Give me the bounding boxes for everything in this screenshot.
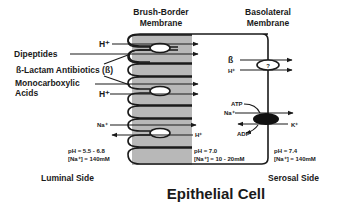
- luminal-side-label: Luminal Side: [41, 173, 94, 183]
- epithelial-cell-transport-diagram: Brush-Border Membrane Basolateral Membra…: [0, 0, 340, 209]
- beta-lactam-branch-1: [104, 55, 128, 64]
- na-pump-label: Na⁺: [224, 110, 235, 116]
- serosal-ph: pH = 7.4: [274, 148, 298, 154]
- brush-border-label-2: Membrane: [140, 18, 183, 28]
- k-pump-label: K⁺: [291, 122, 298, 128]
- cell-ph: pH = 7.0: [194, 148, 218, 154]
- beta-basolateral-label: ß: [228, 55, 233, 65]
- transporter-na-h-exchanger[interactable]: [150, 129, 170, 138]
- h-exchange-label: H⁺: [195, 132, 202, 138]
- h-top-label: H⁺: [99, 39, 110, 49]
- cell-na: [Na⁺] = 10 - 20mM: [194, 156, 245, 162]
- serosal-side-label: Serosal Side: [268, 173, 319, 183]
- transporter-peptide[interactable]: [150, 44, 170, 53]
- dipeptides-label: Dipeptides: [14, 49, 58, 59]
- atp-label: ATP: [231, 101, 243, 107]
- acids-label: Acids: [15, 88, 38, 98]
- luminal-na: [Na⁺] = 140mM: [68, 156, 110, 162]
- na-luminal-label: Na⁺: [97, 122, 108, 128]
- basolateral-label-2: Membrane: [247, 18, 290, 28]
- basolateral-label: Basolateral: [245, 7, 291, 17]
- diagram-title: Epithelial Cell: [167, 185, 265, 202]
- luminal-ph: pH = 5.5 - 6.8: [68, 148, 106, 154]
- atp-curve: [244, 104, 260, 113]
- brush-border-label: Brush-Border: [133, 7, 189, 17]
- serosal-na: [Na⁺] = 140mM: [274, 156, 316, 162]
- na-k-atpase-pump[interactable]: [253, 113, 279, 125]
- beta-lactam-label: ß-Lactam Antibiotics (ß): [16, 65, 113, 75]
- monocarboxylic-label: Monocarboxylic: [15, 78, 80, 88]
- h-basolateral-label: H⁺: [228, 68, 235, 74]
- adp-label: ADP: [237, 131, 250, 137]
- h-mid-label: H⁺: [99, 89, 110, 99]
- unknown-transporter-label: ?: [266, 63, 270, 69]
